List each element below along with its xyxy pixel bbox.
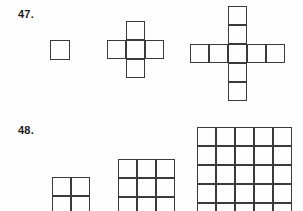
- square-cell: [209, 44, 228, 63]
- square-cell: [156, 159, 175, 178]
- square-cell: [71, 177, 90, 196]
- square-cell: [197, 184, 216, 203]
- square-cell: [235, 184, 254, 203]
- square-cell: [145, 40, 164, 59]
- problem-48-figure-2: [118, 159, 175, 211]
- square-cell: [156, 178, 175, 197]
- square-cell: [273, 165, 292, 184]
- square-cell: [228, 44, 247, 63]
- square-cell: [273, 127, 292, 146]
- square-cell: [273, 146, 292, 165]
- square-cell: [216, 203, 235, 211]
- square-cell: [118, 159, 137, 178]
- square-cell: [228, 82, 247, 101]
- square-cell: [107, 40, 126, 59]
- problem-47-figure-3: [190, 6, 285, 101]
- square-cell: [197, 203, 216, 211]
- square-cell: [273, 184, 292, 203]
- square-cell: [254, 127, 273, 146]
- square-cell: [228, 63, 247, 82]
- square-cell: [71, 196, 90, 211]
- square-cell: [50, 40, 70, 60]
- square-cell: [254, 165, 273, 184]
- square-cell: [235, 146, 254, 165]
- square-cell: [228, 6, 247, 25]
- square-cell: [126, 21, 145, 40]
- square-cell: [216, 165, 235, 184]
- square-cell: [137, 159, 156, 178]
- square-cell: [273, 203, 292, 211]
- square-cell: [156, 197, 175, 211]
- square-cell: [216, 127, 235, 146]
- square-cell: [235, 203, 254, 211]
- square-cell: [266, 44, 285, 63]
- square-cell: [126, 40, 145, 59]
- square-cell: [197, 127, 216, 146]
- square-cell: [52, 177, 71, 196]
- square-cell: [190, 44, 209, 63]
- square-cell: [126, 59, 145, 78]
- square-cell: [228, 25, 247, 44]
- square-cell: [247, 44, 266, 63]
- worksheet-page: 47. 48.: [0, 0, 303, 211]
- square-cell: [254, 184, 273, 203]
- square-cell: [137, 197, 156, 211]
- problem-number-48: 48.: [18, 125, 34, 136]
- square-cell: [197, 165, 216, 184]
- square-cell: [197, 146, 216, 165]
- square-cell: [235, 127, 254, 146]
- square-cell: [216, 146, 235, 165]
- square-cell: [137, 178, 156, 197]
- problem-number-47: 47.: [18, 9, 34, 20]
- square-cell: [235, 165, 254, 184]
- square-cell: [118, 178, 137, 197]
- square-cell: [254, 146, 273, 165]
- problem-48-figure-1: [52, 177, 90, 211]
- problem-47-figure-2: [107, 21, 164, 78]
- problem-48-figure-3: [197, 127, 292, 211]
- square-cell: [216, 184, 235, 203]
- square-cell: [118, 197, 137, 211]
- problem-47-figure-1: [50, 40, 70, 60]
- square-cell: [254, 203, 273, 211]
- square-cell: [52, 196, 71, 211]
